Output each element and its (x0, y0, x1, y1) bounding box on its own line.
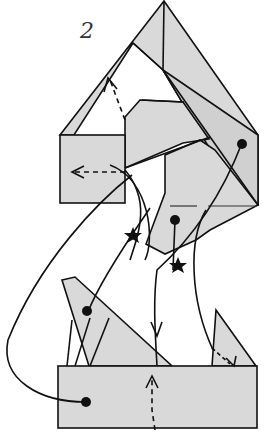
bottom-rectangle (58, 366, 257, 428)
origami-diagram (0, 0, 271, 443)
dot-icon (82, 306, 92, 316)
left-square (60, 135, 125, 203)
dot-icon (81, 397, 91, 407)
dot-icon (170, 215, 180, 225)
star-icon (169, 257, 187, 273)
small-right-triangle (212, 310, 256, 366)
dot-icon (237, 139, 247, 149)
